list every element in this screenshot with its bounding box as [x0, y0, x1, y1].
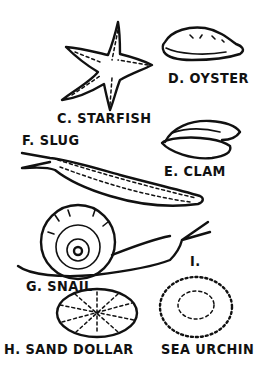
sand-dollar-drawing: [57, 289, 137, 337]
oyster-drawing: [163, 28, 243, 60]
label-snail: G. SNAIL: [26, 278, 93, 294]
label-sea-urchin-letter: I.: [190, 253, 201, 269]
label-sand-dollar: H. SAND DOLLAR: [4, 341, 134, 357]
starfish-drawing: [62, 22, 152, 110]
sea-creatures-diagram: C. STARFISH D. OYSTER E. CLAM F. SLUG G.…: [0, 0, 274, 373]
line-drawings: [0, 0, 274, 373]
label-starfish: C. STARFISH: [57, 110, 151, 126]
snail-drawing: [18, 205, 210, 279]
label-sea-urchin: SEA URCHIN: [161, 341, 254, 357]
label-clam: E. CLAM: [164, 163, 226, 179]
label-oyster: D. OYSTER: [168, 70, 249, 86]
sea-urchin-drawing: [160, 277, 232, 337]
label-slug: F. SLUG: [22, 132, 80, 148]
clam-drawing: [162, 121, 240, 158]
slug-drawing: [22, 153, 203, 206]
